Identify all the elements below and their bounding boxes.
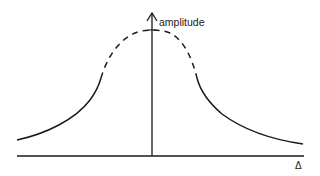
curve-solid-right <box>197 78 303 144</box>
x-axis-label: Δ <box>295 160 302 171</box>
curve-solid-left <box>17 78 101 140</box>
curve-dashed-peak <box>101 30 197 78</box>
y-axis-label: amplitude <box>159 16 205 28</box>
resonance-diagram: amplitude Δ <box>0 0 320 176</box>
